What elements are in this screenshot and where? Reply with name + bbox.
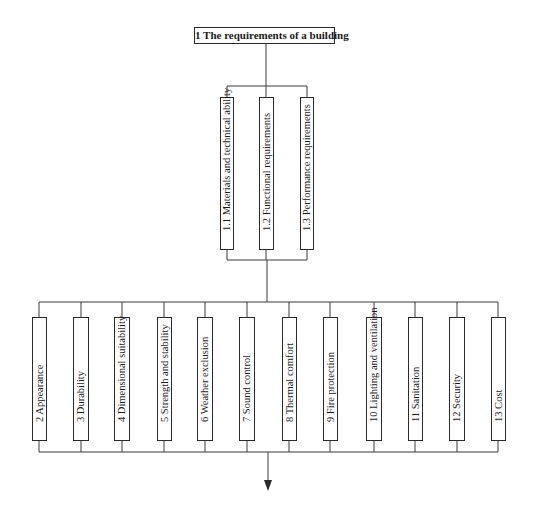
requirement-label: 10 Lighting and ventilation (368, 307, 380, 422)
requirement-label: 7 Sound control (241, 355, 253, 422)
requirement-label: 8 Thermal comfort (284, 343, 296, 422)
requirement-label: 11 Sanitation (410, 367, 422, 422)
arrow-down-icon (264, 480, 272, 491)
requirement-box-cost: 13 Cost (491, 317, 506, 441)
requirement-label: 6 Weather exclusion (199, 337, 211, 422)
requirement-box-fire-protection: 9 Fire protection (323, 317, 338, 441)
requirement-box-thermal-comfort: 8 Thermal comfort (282, 317, 297, 441)
requirement-box-appearance: 2 Appearance (32, 317, 47, 441)
requirement-box-durability: 3 Durability (73, 317, 89, 441)
sub-requirement-label: 1.1 Materials and technical ability (221, 88, 233, 231)
requirement-label: 9 Fire protection (325, 352, 337, 422)
requirement-box-dimensional-suitability: 4 Dimensional suitability (114, 317, 130, 441)
sub-requirement-box-functional: 1.2 Functional requirements (259, 97, 274, 250)
sub-requirement-box-materials: 1.1 Materials and technical ability (220, 97, 234, 250)
sub-requirement-box-performance: 1.3 Performance requirements (300, 97, 314, 250)
requirement-label: 12 Security (451, 374, 463, 422)
requirement-label: 13 Cost (493, 390, 505, 422)
requirement-label: 2 Appearance (34, 365, 46, 422)
requirement-label: 4 Dimensional suitability (116, 316, 128, 422)
requirement-box-weather-exclusion: 6 Weather exclusion (197, 317, 213, 441)
requirement-box-security: 12 Security (449, 317, 465, 441)
root-requirement-label: 1 The requirements of a building (195, 29, 349, 41)
sub-requirement-label: 1.3 Performance requirements (301, 104, 313, 231)
root-requirement-box: 1 The requirements of a building (194, 27, 335, 44)
requirement-box-strength-stability: 5 Strength and stability (157, 317, 172, 441)
requirement-box-sound-control: 7 Sound control (239, 317, 255, 441)
requirement-box-lighting-ventilation: 10 Lighting and ventilation (366, 317, 382, 441)
requirement-label: 5 Strength and stability (159, 324, 171, 422)
requirement-label: 3 Durability (75, 371, 87, 422)
sub-requirement-label: 1.2 Functional requirements (261, 113, 273, 231)
requirement-box-sanitation: 11 Sanitation (408, 317, 423, 441)
